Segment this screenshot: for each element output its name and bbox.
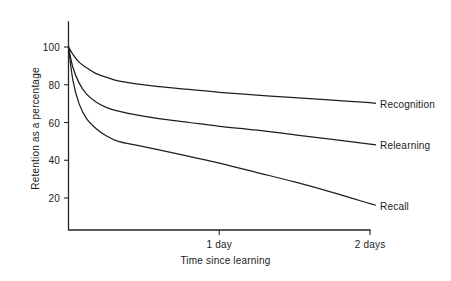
leader-recall	[370, 204, 376, 206]
series-label-relearning: Relearning	[380, 140, 430, 151]
forgetting-curve-figure: Retention as a percentage Time since lea…	[0, 0, 451, 281]
series-curves	[69, 47, 371, 204]
curve-recall	[69, 47, 371, 204]
x-tick-label: 2 days	[355, 239, 386, 250]
x-axis-title: Time since learning	[0, 255, 451, 266]
tick-marks	[64, 47, 370, 235]
y-tick-label: 20	[20, 193, 60, 204]
series-label-recall: Recall	[380, 200, 409, 211]
y-tick-label: 60	[20, 117, 60, 128]
x-tick-label: 1 day	[207, 239, 232, 250]
y-tick-label: 40	[20, 155, 60, 166]
curve-recognition	[69, 47, 371, 103]
leader-recognition	[370, 103, 376, 104]
y-tick-label: 100	[20, 42, 60, 53]
series-leader-lines	[370, 103, 376, 206]
leader-relearning	[370, 144, 376, 145]
axes-group	[64, 22, 370, 235]
curve-relearning	[69, 47, 371, 144]
series-label-recognition: Recognition	[380, 98, 435, 109]
y-axis-title: Retention as a percentage	[30, 49, 41, 209]
y-tick-label: 80	[20, 79, 60, 90]
